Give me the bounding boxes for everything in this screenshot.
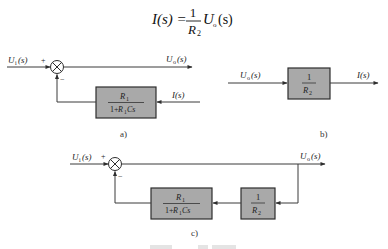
b-block-denominator-base: R	[302, 85, 309, 95]
a-output-label-sub: o	[173, 59, 176, 65]
a-input-label-sub: i	[15, 60, 17, 66]
a-feedback-input-label: I(s)	[171, 90, 185, 100]
c-block1-denominator-suffix: Cs	[182, 206, 190, 215]
c-plus-sign: +	[101, 152, 106, 161]
diagram-b: U o (s) 1 R 2 I(s) b)	[228, 68, 378, 139]
formula-numerator: 1	[190, 5, 197, 20]
c-minus-sign: −	[118, 172, 123, 181]
b-block-numerator: 1	[307, 72, 311, 82]
a-block-denominator-base: R	[117, 105, 123, 114]
a-block-numerator-sub: 1	[126, 96, 129, 102]
formula-denominator-sub: 2	[197, 29, 201, 38]
c-caption: c)	[191, 228, 198, 238]
a-plus-sign: +	[41, 56, 46, 65]
block-diagram-canvas: I(s) = 1 R 2 U o (s) U i (s) + − U o (s)…	[0, 0, 388, 249]
transfer-formula: I(s) = 1 R 2 U o (s)	[151, 5, 233, 38]
a-input-label-base: U	[8, 55, 15, 65]
c-block1-numerator-sub: 1	[182, 197, 185, 203]
a-block-numerator-base: R	[119, 91, 126, 101]
b-output-label: I(s)	[356, 70, 370, 80]
c-block2-denominator-sub: 2	[258, 210, 261, 216]
c-input-label-base: U	[72, 152, 79, 162]
formula-rhs-arg: (s)	[218, 12, 233, 28]
a-output-label-base: U	[166, 54, 173, 64]
c-output-label-arg: (s)	[311, 151, 321, 161]
c-output-label-sub: o	[307, 156, 310, 162]
c-input-label-sub: i	[79, 157, 81, 163]
c-takeoff-line	[276, 164, 298, 203]
a-output-label-arg: (s)	[177, 54, 187, 64]
a-minus-sign: −	[60, 75, 65, 84]
c-output-label-base: U	[300, 151, 307, 161]
b-input-label-arg: (s)	[251, 70, 261, 80]
formula-lhs: I(s) =	[151, 11, 187, 28]
diagram-c: U i (s) + − U o (s) 1 R 2 R 1 1+ R 1 Cs …	[70, 151, 325, 238]
c-block1-denominator-base: R	[172, 206, 178, 215]
b-input-label-base: U	[240, 70, 247, 80]
b-caption: b)	[320, 129, 328, 139]
c-block2-denominator-base: R	[251, 205, 258, 215]
formula-denominator-base: R	[187, 22, 196, 37]
b-input-label-sub: o	[247, 75, 250, 81]
diagram-a: U i (s) + − U o (s) R 1 1+ R 1 Cs I(s) a…	[7, 54, 200, 139]
a-caption: a)	[120, 129, 127, 139]
a-block-denominator-suffix: Cs	[127, 105, 135, 114]
a-summing-junction-icon	[51, 61, 64, 74]
c-block1-numerator-base: R	[175, 192, 182, 202]
b-block-denominator-sub: 2	[309, 90, 312, 96]
formula-rhs-sub: o	[213, 21, 217, 29]
c-summing-junction-icon	[109, 158, 122, 171]
c-block2-numerator: 1	[256, 192, 260, 202]
cropped-figure-caption	[150, 245, 236, 249]
c-input-label-arg: (s)	[82, 152, 92, 162]
a-input-label-arg: (s)	[18, 55, 28, 65]
